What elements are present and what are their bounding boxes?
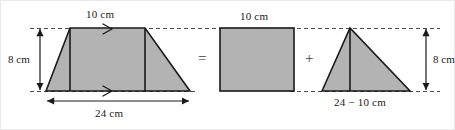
figure-canvas <box>0 0 455 130</box>
geometry-figure: 10 cm 8 cm 24 cm = 10 cm + 24 − 10 cm 8 … <box>0 0 455 130</box>
label-triangle-height: 8 cm <box>433 53 455 65</box>
label-plus: + <box>305 50 313 67</box>
shape-triangle <box>322 28 410 91</box>
label-triangle-base: 24 − 10 cm <box>334 96 386 108</box>
trapezoid-body <box>46 28 190 91</box>
rectangle-body <box>220 28 294 91</box>
triangle-body <box>322 28 410 91</box>
label-trapezoid-height: 8 cm <box>8 53 30 65</box>
label-square-top: 10 cm <box>240 10 268 22</box>
label-trapezoid-base: 24 cm <box>95 107 123 119</box>
label-trapezoid-top: 10 cm <box>86 8 114 20</box>
label-equals: = <box>198 50 206 67</box>
shape-rectangle <box>220 28 294 91</box>
shape-trapezoid <box>46 24 190 96</box>
